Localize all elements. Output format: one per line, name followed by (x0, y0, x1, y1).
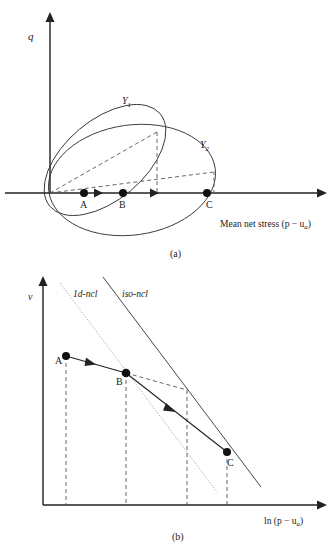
point-c-label: C (227, 457, 234, 468)
v-axis-arrow-icon (39, 276, 48, 286)
path-b-c (126, 373, 227, 452)
dashed-path-y1 (50, 132, 157, 193)
v-axis-label: v (28, 291, 33, 302)
yield-surface-y2 (41, 114, 223, 246)
ln-axis-label: ln (p − ua) (264, 516, 303, 528)
caption-a: (a) (170, 248, 181, 260)
path-arrow-icon (85, 358, 97, 367)
path-arrow-icon (163, 403, 176, 412)
point-c (203, 189, 211, 197)
figure-a: q A B C Y1 Y2 Mean net stress (p (5, 12, 327, 260)
1d-ncl-label: 1d-ncl (73, 289, 98, 299)
point-a-label: A (80, 199, 88, 210)
point-b (119, 189, 127, 197)
mean-net-stress-label: Mean net stress (p − ua) (220, 219, 311, 231)
point-b-label: B (116, 376, 123, 387)
ln-axis-arrow-icon (317, 501, 327, 510)
caption-b: (b) (172, 531, 184, 543)
point-a (62, 352, 70, 360)
iso-ncl-line (103, 277, 261, 487)
point-c (223, 448, 231, 456)
dashed-b-to-iso (126, 373, 187, 390)
y1-label: Y1 (122, 95, 131, 109)
path-arrow-icon (94, 189, 103, 198)
point-b (122, 369, 131, 378)
point-c-label: C (206, 199, 213, 210)
y2-label: Y2 (200, 139, 210, 153)
point-a (80, 189, 88, 197)
1d-ncl-line (60, 283, 217, 492)
p-axis-arrow-icon (317, 189, 327, 198)
path-arrow-icon (150, 189, 159, 198)
point-a-label: A (55, 355, 63, 366)
figure-canvas: q A B C Y1 Y2 Mean net stress (p (0, 0, 336, 554)
point-b-label: B (119, 199, 126, 210)
q-axis-arrow-icon (46, 12, 55, 22)
yield-surface-y1 (24, 83, 186, 237)
q-axis-label: q (28, 30, 34, 42)
figure-b: v 1d-ncl iso-ncl A B C ln (p − ua) ( (28, 276, 327, 543)
iso-ncl-label: iso-ncl (122, 289, 148, 299)
